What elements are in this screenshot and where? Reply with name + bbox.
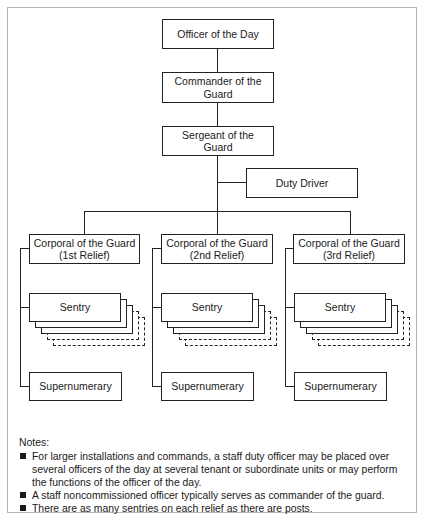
connector-relief3-sentry (285, 307, 294, 308)
sergeant-label-line2: Guard (182, 141, 254, 154)
corporal-2-label-line2: (2nd Relief) (166, 249, 268, 262)
sergeant-label-line1: Sergeant of the (182, 129, 254, 142)
supernumerary-box-relief-3: Supernumerary (294, 372, 387, 401)
connector-relief2-drop (217, 211, 218, 234)
connector-corporal1-tree (20, 248, 29, 249)
connector-relief3-supernumerary (285, 386, 294, 387)
supernumerary-label: Supernumerary (171, 380, 243, 393)
connector-relief1-sentry (20, 307, 29, 308)
connector-officer-commander (217, 49, 218, 72)
sentry-label: Sentry (60, 301, 90, 314)
sentry-label: Sentry (325, 301, 355, 314)
commander-of-the-guard-box: Commander of the Guard (162, 72, 274, 103)
corporal-1st-relief-box: Corporal of the Guard (1st Relief) (29, 234, 140, 264)
corporal-3rd-relief-box: Corporal of the Guard (3rd Relief) (293, 234, 405, 264)
notes-title: Notes: (19, 436, 411, 449)
connector-relief1-drop (84, 211, 85, 234)
connector-sergeant-spine (217, 156, 218, 212)
corporal-1-label-line2: (1st Relief) (34, 249, 136, 262)
corporal-2-label-line1: Corporal of the Guard (166, 237, 268, 250)
duty-driver-label: Duty Driver (276, 177, 329, 190)
notes-section: Notes: For larger installations and comm… (19, 436, 411, 515)
sergeant-of-the-guard-box: Sergeant of the Guard (162, 126, 274, 156)
connector-relief3-tree (285, 248, 286, 387)
connector-relief2-supernumerary (152, 386, 161, 387)
officer-of-the-day-label: Officer of the Day (177, 28, 259, 41)
corporal-1-label-line1: Corporal of the Guard (34, 237, 136, 250)
connector-relief1-supernumerary (20, 386, 29, 387)
square-bullet-icon (20, 453, 26, 459)
note-item: For larger installations and commands, a… (19, 450, 411, 489)
sentry-box-relief-1: Sentry (29, 293, 121, 322)
supernumerary-box-relief-2: Supernumerary (161, 372, 254, 401)
commander-label-line2: Guard (175, 88, 262, 101)
connector-commander-sergeant (217, 103, 218, 126)
corporal-3-label-line2: (3rd Relief) (298, 249, 400, 262)
sentry-label: Sentry (192, 301, 222, 314)
notes-list: For larger installations and commands, a… (19, 450, 411, 515)
note-text: There are as many sentries on each relie… (32, 503, 313, 514)
supernumerary-label: Supernumerary (304, 380, 376, 393)
connector-relief2-tree (152, 248, 153, 387)
connector-duty-driver (217, 182, 246, 183)
square-bullet-icon (20, 492, 26, 498)
note-item: A staff noncommissioned officer typicall… (19, 489, 411, 502)
connector-relief1-tree (20, 248, 21, 387)
corporal-3-label-line1: Corporal of the Guard (298, 237, 400, 250)
supernumerary-label: Supernumerary (39, 380, 111, 393)
sentry-box-relief-2: Sentry (161, 293, 253, 322)
sentry-box-relief-3: Sentry (294, 293, 386, 322)
commander-label-line1: Commander of the (175, 75, 262, 88)
connector-relief2-sentry (152, 307, 161, 308)
connector-corporal2-tree (152, 248, 161, 249)
officer-of-the-day-box: Officer of the Day (162, 19, 274, 49)
note-text: For larger installations and commands, a… (32, 451, 397, 488)
duty-driver-box: Duty Driver (246, 168, 358, 198)
note-item: There are as many sentries on each relie… (19, 502, 411, 515)
note-text: A staff noncommissioned officer typicall… (32, 490, 385, 501)
connector-relief3-drop (350, 211, 351, 234)
supernumerary-box-relief-1: Supernumerary (29, 372, 122, 401)
corporal-2nd-relief-box: Corporal of the Guard (2nd Relief) (161, 234, 273, 264)
square-bullet-icon (20, 505, 26, 511)
